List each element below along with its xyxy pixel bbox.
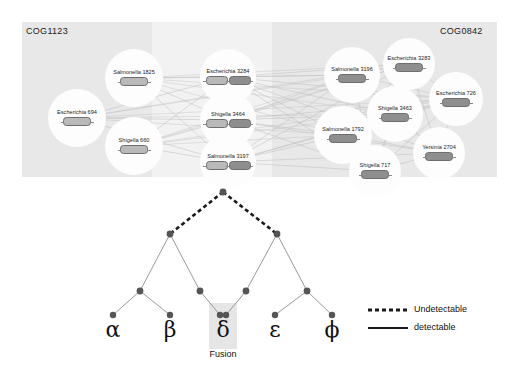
gene-glyph-group [120,145,148,154]
gene-icon [63,117,91,126]
gene-glyph-group [381,113,409,122]
network-node-label: Salmonella 1792 [322,127,364,133]
gene-icon [442,98,470,107]
gene-icon [425,152,453,161]
network-node-label: Shigella 660 [119,138,150,144]
network-node-label: Yersinia 2704 [422,145,456,151]
network-node[interactable]: Escherichia 3283 [383,38,435,90]
network-node-label: Shigella 3464 [211,112,245,118]
gene-icon [381,113,409,122]
network-node-label: Salmonella 3197 [207,154,249,160]
network-node-label: Escherichia 3284 [207,69,250,75]
gene-glyph-group [338,74,366,83]
gene-icon [206,119,228,128]
legend-label-solid: detectable [414,322,456,332]
gene-icon [120,77,148,86]
gene-icon [206,161,228,170]
gene-glyph-group [329,134,357,143]
gene-icon [229,76,251,85]
gene-icon [329,134,357,143]
network-node-label: Shigella 717 [360,163,391,169]
network-node[interactable]: Salmonella 1825 [105,49,163,107]
gene-icon [229,119,251,128]
gene-glyph-group [361,170,389,179]
gene-glyph-group [442,98,470,107]
gene-glyph-group [395,63,423,72]
network-node[interactable]: Shigella 660 [105,117,163,175]
gene-glyph-group [63,117,91,126]
gene-glyph-group [206,161,251,170]
network-node[interactable]: Escherichia 726 [429,72,483,126]
network-node[interactable]: Salmonella 3196 [324,47,380,103]
network-panel: Salmonella 1825Escherichia 694Shigella 6… [22,22,497,177]
gene-fusion-figure: Salmonella 1825Escherichia 694Shigella 6… [0,0,511,392]
cog0842-label: COG0842 [440,26,483,36]
gene-glyph-group [206,76,251,85]
network-node-label: Shigella 3463 [378,106,412,112]
phylogenetic-tree: αβδεϕ Fusion Undetectabledetectable [0,180,511,392]
gene-icon [229,161,251,170]
network-node[interactable]: Escherichia 694 [48,89,106,147]
network-node-label: Escherichia 726 [436,91,476,97]
network-node-label: Salmonella 3196 [331,67,373,73]
gene-icon [395,63,423,72]
network-node[interactable]: Yersinia 2704 [413,127,465,179]
gene-icon [206,76,228,85]
gene-glyph-group [120,77,148,86]
network-node-label: Escherichia 3283 [388,56,431,62]
gene-icon [120,145,148,154]
gene-glyph-group [425,152,453,161]
gene-glyph-group [206,119,251,128]
network-node-label: Salmonella 1825 [113,70,155,76]
gene-icon [338,74,366,83]
network-node[interactable]: Shigella 3463 [367,86,423,142]
legend-lines [0,180,511,392]
gene-icon [361,170,389,179]
network-node-label: Escherichia 694 [57,110,97,116]
cog1123-label: COG1123 [26,26,68,36]
legend-label-dashed: Undetectable [414,304,467,314]
